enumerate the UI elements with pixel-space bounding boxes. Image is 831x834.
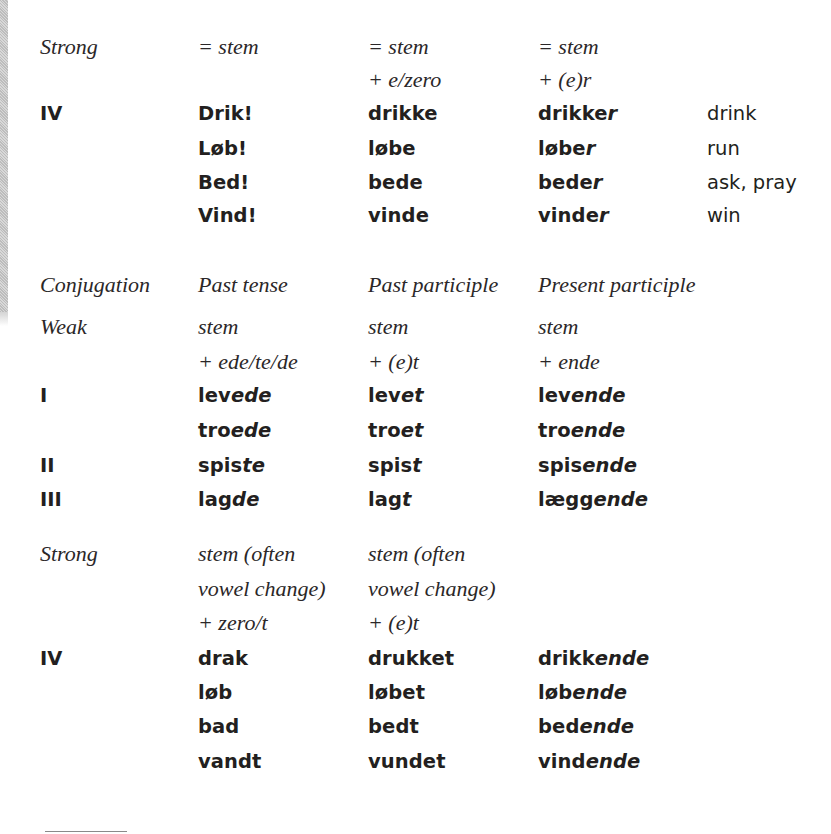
past-tense-rule-line2: vowel change)	[198, 574, 326, 604]
present-form: drikker	[538, 99, 617, 129]
present-form: beder	[538, 168, 603, 198]
table-row: I levede levet levende	[0, 381, 831, 411]
table-row: IV drak drukket drikkende	[0, 644, 831, 674]
past-participle-form: vundet	[368, 747, 446, 777]
group-label: IV	[40, 99, 62, 129]
past-tense-form: drak	[198, 644, 248, 674]
present-participle-form: levende	[538, 381, 626, 411]
present-rule-suffix: + (e)r	[538, 65, 591, 95]
infinitive-form: løbe	[368, 134, 416, 164]
present-form: løber	[538, 134, 595, 164]
table-row: løb løbet løbende	[0, 678, 831, 708]
imperative-form: Løb!	[198, 134, 247, 164]
header-row-weak: Weak stem stem stem	[0, 312, 831, 342]
column-header-past-tense: Past tense	[198, 270, 288, 300]
table-row: Løb! løbe løber run	[0, 134, 831, 164]
imperative-form: Vind!	[198, 201, 257, 231]
infinitive-rule: = stem	[368, 32, 429, 62]
present-participle-form: troende	[538, 416, 625, 446]
meaning: ask, pray	[707, 168, 797, 198]
present-participle-form: bedende	[538, 712, 634, 742]
past-tense-rule: stem	[198, 312, 238, 342]
present-participle-rule-suffix: + ende	[538, 347, 600, 377]
group-label: II	[40, 451, 55, 481]
meaning: drink	[707, 99, 756, 129]
table-row: Bed! bede beder ask, pray	[0, 168, 831, 198]
header-row-strong-suffix: + e/zero + (e)r	[0, 65, 831, 95]
class-label: Weak	[40, 312, 87, 342]
past-tense-form: vandt	[198, 747, 262, 777]
past-participle-form: lagt	[368, 485, 412, 515]
past-participle-form: spist	[368, 451, 422, 481]
table-row: bad bedt bedende	[0, 712, 831, 742]
header-row-weak-suffix: + ede/te/de + (e)t + ende	[0, 347, 831, 377]
infinitive-form: bede	[368, 168, 423, 198]
group-label: I	[40, 381, 47, 411]
present-form: vinder	[538, 201, 609, 231]
infinitive-rule-suffix: + e/zero	[368, 65, 441, 95]
past-participle-form: levet	[368, 381, 424, 411]
table-row: III lagde lagt læggende	[0, 485, 831, 515]
past-participle-rule: stem (often	[368, 539, 465, 569]
imperative-form: Drik!	[198, 99, 253, 129]
group-label: III	[40, 485, 62, 515]
table-row: Vind! vinde vinder win	[0, 201, 831, 231]
infinitive-form: drikke	[368, 99, 438, 129]
imperative-rule: = stem	[198, 32, 259, 62]
table-row: vandt vundet vindende	[0, 747, 831, 777]
class-label: Strong	[40, 32, 98, 62]
past-tense-form: lagde	[198, 485, 260, 515]
group-label: IV	[40, 644, 62, 674]
column-header-past-participle: Past participle	[368, 270, 498, 300]
table-row: troede troet troende	[0, 416, 831, 446]
past-tense-form: levede	[198, 381, 272, 411]
header-row-strong: Strong = stem = stem = stem	[0, 32, 831, 62]
past-participle-rule-suffix: + (e)t	[368, 608, 419, 638]
past-participle-rule-suffix: + (e)t	[368, 347, 419, 377]
past-participle-form: løbet	[368, 678, 425, 708]
past-participle-form: bedt	[368, 712, 419, 742]
past-participle-form: troet	[368, 416, 423, 446]
footnote-rule	[45, 831, 127, 832]
table-row: IV Drik! drikke drikker drink	[0, 99, 831, 129]
header-row-strong-past-suffix: + zero/t + (e)t	[0, 608, 831, 638]
infinitive-form: vinde	[368, 201, 429, 231]
past-tense-rule-suffix: + ede/te/de	[198, 347, 298, 377]
past-tense-form: troede	[198, 416, 271, 446]
column-header-present-participle: Present participle	[538, 270, 695, 300]
present-participle-form: løbende	[538, 678, 627, 708]
past-tense-form: løb	[198, 678, 232, 708]
column-header-row: Conjugation Past tense Past participle P…	[0, 270, 831, 300]
past-tense-rule: stem (often	[198, 539, 295, 569]
header-row-strong-past-line2: vowel change) vowel change)	[0, 574, 831, 604]
present-participle-rule: stem	[538, 312, 578, 342]
past-participle-rule: stem	[368, 312, 408, 342]
meaning: run	[707, 134, 740, 164]
present-participle-form: vindende	[538, 747, 640, 777]
present-rule: = stem	[538, 32, 599, 62]
past-participle-form: drukket	[368, 644, 454, 674]
imperative-form: Bed!	[198, 168, 249, 198]
present-participle-form: læggende	[538, 485, 648, 515]
present-participle-form: spisende	[538, 451, 637, 481]
past-participle-rule-line2: vowel change)	[368, 574, 496, 604]
past-tense-form: spiste	[198, 451, 265, 481]
header-row-strong-past: Strong stem (often stem (often	[0, 539, 831, 569]
column-header-conjugation: Conjugation	[40, 270, 150, 300]
table-row: II spiste spist spisende	[0, 451, 831, 481]
present-participle-form: drikkende	[538, 644, 649, 674]
meaning: win	[707, 201, 741, 231]
past-tense-rule-suffix: + zero/t	[198, 608, 268, 638]
class-label: Strong	[40, 539, 98, 569]
past-tense-form: bad	[198, 712, 239, 742]
